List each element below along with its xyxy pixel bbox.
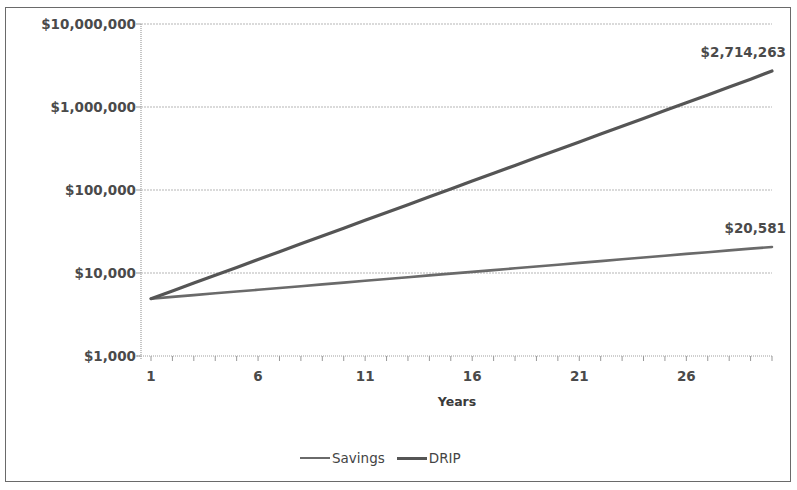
data-labels: $20,581$2,714,263 bbox=[701, 44, 786, 236]
x-tick-label: 16 bbox=[463, 368, 482, 384]
drip-line-swatch-icon bbox=[397, 457, 427, 460]
line-chart: $10,000,000$1,000,000$100,000$10,000$1,0… bbox=[0, 0, 797, 490]
x-tick-label: 6 bbox=[253, 368, 262, 384]
series-line-drip bbox=[151, 71, 772, 299]
y-tick-label: $1,000,000 bbox=[51, 99, 136, 115]
legend-item-savings: Savings bbox=[300, 450, 385, 466]
x-axis-labels: 1611162126 bbox=[146, 368, 695, 384]
legend: Savings DRIP bbox=[300, 450, 461, 466]
series-lines bbox=[151, 71, 772, 299]
savings-line-swatch-icon bbox=[300, 457, 330, 460]
legend-item-drip: DRIP bbox=[397, 450, 461, 466]
x-tick-label: 11 bbox=[356, 368, 375, 384]
gridlines bbox=[141, 24, 772, 273]
x-tick-label: 1 bbox=[146, 368, 155, 384]
y-axis-labels: $10,000,000$1,000,000$100,000$10,000$1,0… bbox=[41, 16, 136, 364]
end-label-savings: $20,581 bbox=[725, 220, 787, 236]
x-tick-label: 26 bbox=[677, 368, 696, 384]
y-tick-label: $100,000 bbox=[65, 182, 136, 198]
legend-label-drip: DRIP bbox=[429, 450, 461, 466]
y-tick-label: $10,000,000 bbox=[41, 16, 136, 32]
end-label-drip: $2,714,263 bbox=[701, 44, 786, 60]
legend-label-savings: Savings bbox=[332, 450, 385, 466]
y-tick-label: $1,000 bbox=[84, 348, 136, 364]
y-tick-label: $10,000 bbox=[75, 265, 137, 281]
x-tick-label: 21 bbox=[570, 368, 589, 384]
axes bbox=[136, 24, 772, 361]
x-axis-title: Years bbox=[437, 394, 476, 409]
